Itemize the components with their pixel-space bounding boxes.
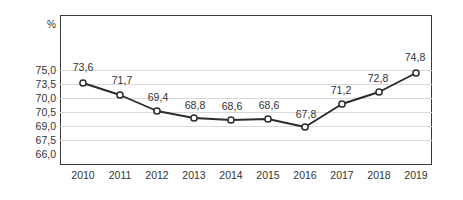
y-axis-tick-label: 73,5 [18,79,56,90]
data-point-label: 69,4 [148,92,168,103]
y-axis-tick-label: 75,0 [18,65,56,76]
data-point-label: 71,7 [112,75,132,86]
x-axis-tick-label: 2018 [358,170,400,181]
x-axis-tick-label: 2016 [284,170,326,181]
x-axis-tick-label: 2012 [136,170,178,181]
line-chart: % 75,073,570,070,569,067,566,0 201020112… [0,0,463,200]
x-axis-tick-label: 2017 [321,170,363,181]
y-axis-unit-label: % [30,20,56,30]
x-axis-tick-label: 2013 [173,170,215,181]
x-axis-tick-label: 2019 [395,170,437,181]
data-point-label: 68,6 [222,101,242,112]
y-axis-tick-label: 67,5 [18,135,56,146]
data-point-label: 73,6 [73,62,93,73]
data-point-label: 68,8 [185,100,205,111]
data-point-label: 68,6 [259,100,279,111]
x-axis-tick-label: 2011 [99,170,141,181]
x-axis-tick-label: 2015 [247,170,289,181]
x-axis-tick-label: 2014 [210,170,252,181]
data-point-label: 71,2 [331,85,351,96]
y-axis-tick-label: 70,5 [18,107,56,118]
y-axis-tick-label: 66,0 [18,149,56,160]
data-point-label: 67,8 [296,109,316,120]
plot-area-frame [60,15,432,165]
x-axis-tick-label: 2010 [62,170,104,181]
data-point-label: 72,8 [368,73,388,84]
data-point-label: 74,8 [405,52,425,63]
y-axis-tick-label: 70,0 [18,93,56,104]
y-axis-tick-label: 69,0 [18,121,56,132]
